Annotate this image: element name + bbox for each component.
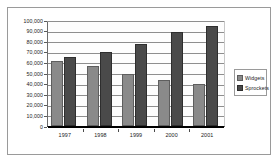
legend-item-widgets[interactable]: Widgets — [237, 73, 264, 82]
y-tick-label: 30,000 — [27, 91, 43, 100]
bar-sprockets-1999 — [135, 44, 147, 126]
y-tick-label: 80,000 — [27, 38, 43, 47]
bar-sprockets-2000 — [171, 32, 183, 126]
chart-figure: 100,00090,00080,00070,00060,00050,00040,… — [7, 7, 271, 155]
x-axis: 19971998199920002001 — [47, 129, 227, 141]
bar-sprockets-1998 — [100, 52, 112, 126]
y-tick-label: 0 — [40, 123, 43, 132]
y-tick-label: 40,000 — [27, 80, 43, 89]
y-tick-label: 20,000 — [27, 101, 43, 110]
y-tick-label: 60,000 — [27, 59, 43, 68]
bar-group — [190, 22, 226, 126]
legend-item-sprockets[interactable]: Sprockets — [237, 83, 264, 92]
chart-legend: WidgetsSprockets — [234, 69, 267, 96]
legend-swatch-icon — [237, 85, 243, 91]
plot-area — [47, 21, 225, 127]
x-tick-label-1998: 1998 — [83, 131, 117, 139]
x-tick-label-1999: 1999 — [119, 131, 153, 139]
bar-group — [84, 22, 120, 126]
x-tick-label-2000: 2000 — [155, 131, 189, 139]
bar-sprockets-1997 — [64, 57, 76, 126]
x-tick-mark — [83, 129, 84, 132]
y-tick-label: 50,000 — [27, 70, 43, 79]
bar-widgets-2000 — [158, 80, 170, 126]
bar-widgets-1998 — [87, 66, 99, 126]
x-tick-mark — [189, 129, 190, 132]
x-tick-label-1997: 1997 — [48, 131, 82, 139]
bar-group — [48, 22, 84, 126]
x-tick-mark — [154, 129, 155, 132]
y-tick-label: 10,000 — [27, 112, 43, 121]
legend-label: Sprockets — [245, 85, 269, 91]
legend-swatch-icon — [237, 75, 243, 81]
bar-widgets-1999 — [122, 74, 134, 126]
bar-group — [119, 22, 155, 126]
gridline — [48, 127, 224, 128]
x-tick-label-2001: 2001 — [190, 131, 224, 139]
bar-group — [155, 22, 191, 126]
y-tick-label: 90,000 — [27, 27, 43, 36]
bar-widgets-2001 — [193, 84, 205, 126]
y-axis: 100,00090,00080,00070,00060,00050,00040,… — [8, 17, 45, 129]
bar-sprockets-2001 — [206, 26, 218, 126]
bar-widgets-1997 — [51, 61, 63, 126]
y-tick-label: 100,000 — [24, 17, 43, 26]
legend-label: Widgets — [245, 75, 264, 81]
y-tick-label: 70,000 — [27, 48, 43, 57]
x-tick-mark — [118, 129, 119, 132]
